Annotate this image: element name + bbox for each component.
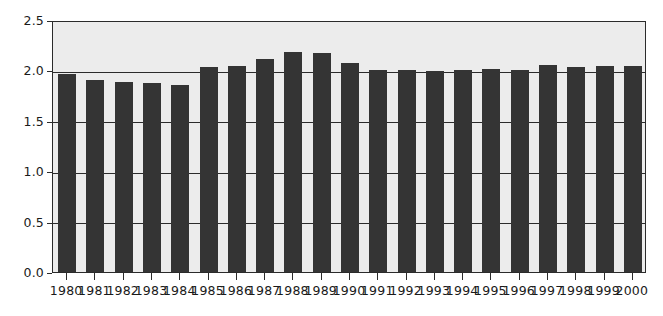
bar — [454, 70, 472, 272]
bar — [482, 69, 500, 272]
bar — [313, 53, 331, 272]
bars-layer — [53, 22, 645, 272]
bar — [171, 85, 189, 272]
bar — [200, 67, 218, 272]
bar — [58, 74, 76, 272]
bar — [624, 66, 642, 272]
plot-area — [52, 21, 646, 273]
y-tick-label: 1.5 — [24, 114, 44, 129]
x-tick-mark — [349, 273, 350, 280]
x-tick-mark — [377, 273, 378, 280]
bar — [115, 82, 133, 273]
bar — [256, 59, 274, 272]
x-tick-mark — [434, 273, 435, 280]
bar — [596, 66, 614, 272]
y-tick-label: 0.5 — [24, 215, 44, 230]
x-tick-label: 2000 — [616, 283, 649, 298]
x-tick-mark — [490, 273, 491, 280]
y-tick-label: 2.0 — [24, 63, 44, 78]
x-tick-mark — [236, 273, 237, 280]
y-tick-label: 2.5 — [24, 13, 44, 28]
bar — [398, 70, 416, 272]
bar — [511, 70, 529, 272]
bar — [426, 71, 444, 272]
x-tick-mark — [632, 273, 633, 280]
bar — [539, 65, 557, 272]
x-tick-mark — [264, 273, 265, 280]
x-axis: 1980198119821983198419851986198719881989… — [52, 273, 646, 316]
x-tick-mark — [94, 273, 95, 280]
bar — [228, 66, 246, 272]
bar — [86, 80, 104, 272]
y-tick-label: 0.0 — [24, 265, 44, 280]
y-axis: 0.00.51.01.52.02.5 — [0, 21, 52, 273]
bar — [369, 70, 387, 272]
bar — [284, 52, 302, 272]
x-tick-mark — [575, 273, 576, 280]
x-tick-mark — [547, 273, 548, 280]
x-tick-mark — [604, 273, 605, 280]
x-tick-mark — [208, 273, 209, 280]
bar-chart: 0.00.51.01.52.02.5 198019811982198319841… — [0, 0, 663, 316]
x-tick-mark — [519, 273, 520, 280]
x-tick-mark — [292, 273, 293, 280]
bar — [143, 83, 161, 273]
x-tick-mark — [151, 273, 152, 280]
x-tick-mark — [406, 273, 407, 280]
bar — [341, 63, 359, 272]
bar — [567, 67, 585, 272]
x-tick-mark — [462, 273, 463, 280]
y-tick-label: 1.0 — [24, 164, 44, 179]
x-tick-mark — [66, 273, 67, 280]
x-tick-mark — [179, 273, 180, 280]
x-tick-mark — [321, 273, 322, 280]
x-tick-mark — [123, 273, 124, 280]
